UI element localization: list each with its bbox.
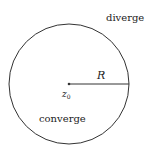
center-point xyxy=(68,83,71,86)
center-label-subscript: 0 xyxy=(67,93,71,100)
diverge-label: diverge xyxy=(106,12,144,23)
radius-label: R xyxy=(96,69,105,82)
center-label: z0 xyxy=(61,89,71,100)
convergence-diagram: diverge R z0 converge xyxy=(0,0,158,155)
converge-label: converge xyxy=(39,113,86,124)
